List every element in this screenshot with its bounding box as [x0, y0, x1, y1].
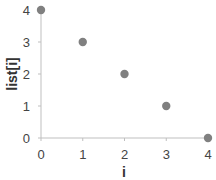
- y-tick-labels: 01234: [23, 3, 30, 146]
- y-tick-label: 4: [23, 3, 30, 18]
- data-point: [37, 6, 45, 14]
- y-tick-label: 3: [23, 35, 30, 50]
- x-tick-label: 2: [121, 147, 128, 162]
- x-tick-label: 1: [79, 147, 86, 162]
- x-tick-label: 3: [163, 147, 170, 162]
- y-tick-label: 0: [23, 131, 30, 146]
- data-point: [162, 102, 170, 110]
- scatter-chart: 01234 01234 i list[i]: [0, 0, 216, 180]
- y-tick-label: 2: [23, 67, 30, 82]
- data-point: [120, 70, 128, 78]
- x-axis-label: i: [122, 164, 126, 180]
- x-tick-label: 0: [37, 147, 44, 162]
- data-point: [79, 38, 87, 46]
- data-point: [204, 134, 212, 142]
- data-points: [37, 6, 212, 142]
- y-axis-label: list[i]: [4, 57, 20, 90]
- x-tick-label: 4: [204, 147, 211, 162]
- x-tick-labels: 01234: [37, 147, 211, 162]
- y-tick-label: 1: [23, 99, 30, 114]
